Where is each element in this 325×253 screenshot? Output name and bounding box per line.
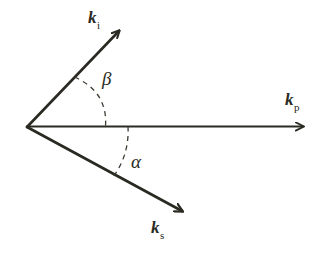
vector-label-kp-subscript: p — [294, 101, 300, 113]
angle-arc-beta — [75, 77, 106, 127]
wave-vector-diagram: ki kp ks β α — [0, 0, 325, 253]
angle-label-beta: β — [102, 69, 111, 88]
angle-arc-alpha — [113, 127, 128, 178]
vector-label-kp: kp — [285, 91, 299, 111]
vector-label-ks: ks — [151, 219, 164, 239]
vector-label-ks-subscript: s — [160, 229, 164, 241]
vector-diagram-canvas — [0, 0, 325, 253]
vector-label-ki: ki — [88, 9, 100, 29]
vector-label-ks-symbol: k — [151, 218, 160, 237]
vector-label-ki-subscript: i — [97, 19, 100, 31]
vector-line-ks — [27, 127, 182, 211]
angle-label-alpha: α — [131, 152, 141, 171]
vector-label-kp-symbol: k — [285, 90, 294, 109]
vector-label-ki-symbol: k — [88, 8, 97, 27]
